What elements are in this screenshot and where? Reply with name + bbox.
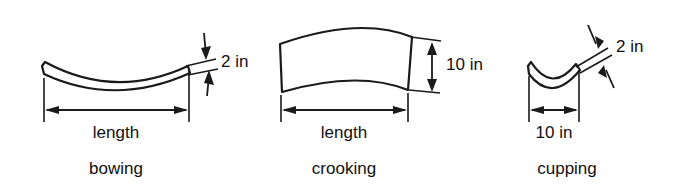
crooking-caption: crooking — [312, 159, 376, 178]
bowing-caption: bowing — [89, 159, 143, 178]
lumber-warp-defects-figure: 2 in length bowing 10 in length — [0, 0, 691, 189]
bowing-deflection-label: 2 in — [221, 52, 248, 71]
cupping-thickness-lower-arrow-head — [598, 65, 607, 78]
cupping-thickness-lower-leader — [580, 55, 612, 73]
crooking-depth-lower-leader — [409, 90, 440, 93]
bowing-thickness-upper-arrow-head — [201, 46, 211, 60]
cupping-thickness-lower-arrow-line — [606, 70, 614, 88]
crooking-deflection-label: 10 in — [446, 55, 483, 74]
bowing-length-label: length — [93, 123, 139, 142]
cupping-thickness-upper-arrow-head — [595, 36, 604, 49]
cupping-width-label: 10 in — [536, 123, 573, 142]
crooking-depth-arrow-up — [427, 42, 437, 55]
panel-cupping: 10 in 2 in cupping — [490, 0, 691, 189]
cupping-board-shape — [528, 62, 580, 88]
bowing-length-arrow-right — [174, 106, 188, 114]
crooking-depth-upper-leader — [411, 37, 441, 41]
crooking-length-label: length — [321, 123, 367, 142]
cupping-caption: cupping — [537, 159, 597, 178]
bowing-length-arrow-left — [45, 106, 59, 114]
crooking-depth-arrow-down — [427, 79, 437, 92]
cupping-width-arrow-left — [530, 106, 544, 114]
bowing-thickness-lower-leader — [188, 69, 218, 75]
crooking-length-arrow-left — [282, 106, 296, 114]
cupping-width-arrow-right — [564, 106, 578, 114]
panel-crooking: 10 in length crooking — [250, 0, 490, 189]
crooking-board-shape — [280, 28, 412, 92]
cupping-thickness-upper-arrow-line — [588, 25, 596, 44]
crooking-length-arrow-right — [393, 106, 407, 114]
panel-bowing: 2 in length bowing — [0, 0, 250, 189]
cupping-deflection-label: 2 in — [616, 37, 643, 56]
cupping-thickness-upper-leader — [576, 48, 608, 67]
bowing-thickness-upper-leader — [186, 59, 216, 66]
bowing-board-shape — [42, 62, 190, 90]
